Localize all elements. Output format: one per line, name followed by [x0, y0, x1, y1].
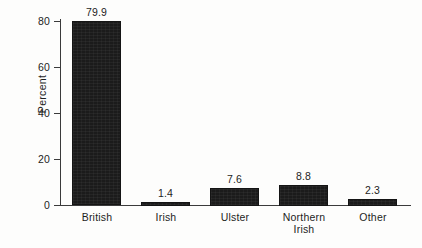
y-tick-40 [54, 113, 61, 114]
x-category-label-ulster: Ulster [200, 211, 270, 223]
y-tick-label-20: 20 [10, 154, 50, 165]
bar-british [72, 21, 121, 205]
value-label-british: 79.9 [72, 7, 121, 18]
bar-chart-figure: 80 60 40 20 0 Percent 79.9 1.4 7.6 8.8 2… [0, 0, 422, 248]
y-axis-title: Percent [36, 64, 48, 124]
value-label-irish: 1.4 [141, 188, 190, 199]
value-label-northern-irish: 8.8 [279, 171, 328, 182]
x-category-label-northern-irish: Northern Irish [269, 211, 339, 235]
bar-other [348, 199, 397, 206]
bar-ulster [210, 188, 259, 206]
plot-area: 80 60 40 20 0 Percent 79.9 1.4 7.6 8.8 2… [0, 0, 422, 248]
x-category-label-british: British [62, 211, 132, 223]
value-label-ulster: 7.6 [210, 174, 259, 185]
y-tick-60 [54, 67, 61, 68]
y-tick-0 [54, 205, 61, 206]
y-tick-80 [54, 21, 61, 22]
y-tick-label-0: 0 [10, 200, 50, 211]
x-category-label-irish: Irish [131, 211, 201, 223]
value-label-other: 2.3 [348, 185, 397, 196]
bar-northern-irish [279, 185, 328, 206]
y-tick-label-80: 80 [10, 16, 50, 27]
bar-irish [141, 202, 190, 206]
x-category-label-other: Other [338, 211, 408, 223]
y-tick-20 [54, 159, 61, 160]
